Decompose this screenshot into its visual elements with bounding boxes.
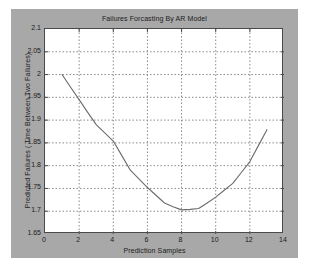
figure-window: Failures Forcasting By AR Model Predicti… (11, 9, 298, 258)
x-tick-label: 14 (273, 236, 293, 243)
x-axis-label: Prediction Samples (11, 247, 298, 254)
y-tick-label: 2 (15, 70, 41, 77)
y-tick-label: 1.95 (15, 92, 41, 99)
y-tick-label: 1.7 (15, 206, 41, 213)
y-tick-label: 2.1 (15, 24, 41, 31)
y-tick-label: 1.75 (15, 183, 41, 190)
x-tick-label: 2 (68, 236, 88, 243)
y-tick-label: 1.65 (15, 229, 41, 236)
x-tick-label: 0 (34, 236, 54, 243)
chart-title: Failures Forcasting By AR Model (11, 15, 298, 22)
y-tick-label: 1.9 (15, 115, 41, 122)
x-tick-label: 8 (171, 236, 191, 243)
y-axis-label: Predicted Failures ( Time Between Two Fa… (24, 31, 31, 231)
x-tick-label: 4 (102, 236, 122, 243)
y-tick-label: 1.8 (15, 161, 41, 168)
data-series-line (62, 75, 267, 210)
x-tick-label: 10 (205, 236, 225, 243)
y-tick-label: 1.85 (15, 138, 41, 145)
plot-area (44, 28, 283, 233)
chart-canvas (45, 29, 284, 234)
x-tick-label: 6 (136, 236, 156, 243)
y-tick-label: 2.05 (15, 47, 41, 54)
x-tick-label: 12 (239, 236, 259, 243)
